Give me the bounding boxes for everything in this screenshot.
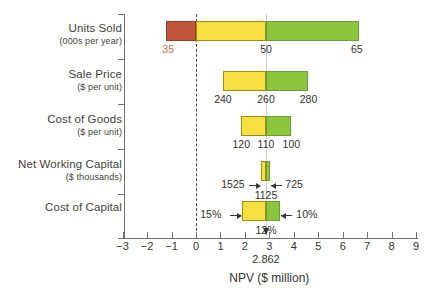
x-axis-tick-label: 5: [315, 240, 321, 252]
x-axis-tick-label: 1: [217, 240, 223, 252]
category-axis-tick: [118, 149, 124, 150]
bar-units-sold: [166, 21, 359, 41]
value-label-base: 1125: [255, 189, 278, 201]
base-case-value-label: 2.862: [252, 253, 280, 265]
bar-segment-high: [266, 21, 359, 41]
bar-net-working-capital: [261, 161, 270, 181]
row-label-unit: ($ per unit): [47, 127, 122, 137]
bar-segment-high: [266, 161, 270, 181]
x-axis-tick-label: 2: [242, 240, 248, 252]
bar-segment-low: [196, 21, 266, 41]
base-case-arrow: [263, 228, 269, 235]
bar-segment-low: [242, 201, 266, 221]
row-label-name: Cost of Goods: [47, 113, 122, 126]
row-label-unit: (000s per year): [59, 36, 122, 46]
category-axis-tick: [118, 238, 124, 239]
x-axis-tick: [343, 232, 344, 238]
bar-segment-high: [266, 201, 280, 221]
category-axis-tick: [118, 14, 124, 15]
bar-cost-of-goods: [241, 116, 291, 136]
row-label-sale-price: Sale Price($ per unit): [69, 68, 122, 92]
bar-segment-low: [241, 116, 266, 136]
row-label-name: Sale Price: [69, 68, 122, 81]
bar-sale-price: [223, 71, 309, 91]
x-axis-tick-label: 4: [291, 240, 297, 252]
value-label-base: 110: [258, 138, 275, 150]
annotation-arrow-low-head: [256, 183, 261, 189]
value-label-high: 10%: [296, 208, 317, 220]
value-label-high: 280: [300, 93, 318, 105]
x-axis-tick: [294, 232, 295, 238]
bar-segment-low: [223, 71, 266, 91]
x-axis-tick-label: −1: [165, 240, 178, 252]
x-axis-tick: [220, 232, 221, 238]
value-label-high: 65: [351, 43, 363, 55]
x-axis-tick-label: −3: [116, 240, 129, 252]
x-axis-tick: [269, 232, 270, 238]
value-label-high: 100: [283, 138, 301, 150]
category-axis-tick: [118, 59, 124, 60]
bar-segment-high: [266, 71, 308, 91]
x-axis-tick: [318, 232, 319, 238]
bar-cost-of-capital: [242, 201, 280, 221]
x-axis-tick-label: −2: [141, 240, 154, 252]
annotation-arrow-high-head: [281, 213, 286, 219]
x-axis-tick-label: 7: [364, 240, 370, 252]
row-label-units-sold: Units Sold(000s per year): [59, 22, 122, 46]
value-label-base: 260: [257, 93, 275, 105]
x-axis-tick-label: 0: [193, 240, 199, 252]
bar-segment-high: [266, 116, 291, 136]
sensitivity-tornado-chart: Units Sold(000s per year)355065Sale Pric…: [0, 0, 437, 295]
zero-reference-line: [196, 14, 197, 236]
value-label-low: 1525: [221, 178, 244, 190]
x-axis-line: [124, 238, 418, 239]
value-label-low: 35: [162, 43, 174, 55]
x-axis-tick: [416, 232, 417, 238]
x-axis-tick: [172, 232, 173, 238]
annotation-arrow-low-head: [237, 213, 242, 219]
row-label-name: Units Sold: [59, 22, 122, 35]
category-axis-line: [124, 14, 125, 238]
row-label-cost-of-goods: Cost of Goods($ per unit): [47, 113, 122, 137]
value-label-low: 240: [214, 93, 232, 105]
x-axis-title: NPV ($ million): [229, 271, 309, 285]
value-label-low: 15%: [200, 208, 221, 220]
annotation-arrow-high-head: [271, 183, 276, 189]
x-axis-tick: [392, 232, 393, 238]
x-axis-tick: [196, 232, 197, 238]
row-label-unit: ($ thousands): [18, 172, 122, 182]
x-axis-tick: [245, 232, 246, 238]
row-label-net-working-capital: Net Working Capital($ thousands): [18, 158, 122, 182]
row-label-name: Cost of Capital: [45, 201, 122, 214]
x-axis-tick: [147, 232, 148, 238]
x-axis-tick-label: 8: [389, 240, 395, 252]
x-axis-tick-label: 3: [266, 240, 272, 252]
bar-segment-negative: [166, 21, 196, 41]
row-label-unit: ($ per unit): [69, 82, 122, 92]
value-label-low: 120: [232, 138, 250, 150]
category-axis-tick: [118, 104, 124, 105]
x-axis-tick-label: 6: [340, 240, 346, 252]
x-axis-tick: [367, 232, 368, 238]
row-label-name: Net Working Capital: [18, 158, 122, 171]
category-axis-tick: [118, 194, 124, 195]
value-label-high: 725: [285, 178, 303, 190]
row-label-cost-of-capital: Cost of Capital: [45, 201, 122, 214]
x-axis-tick-label: 9: [413, 240, 419, 252]
value-label-base: 50: [260, 43, 272, 55]
